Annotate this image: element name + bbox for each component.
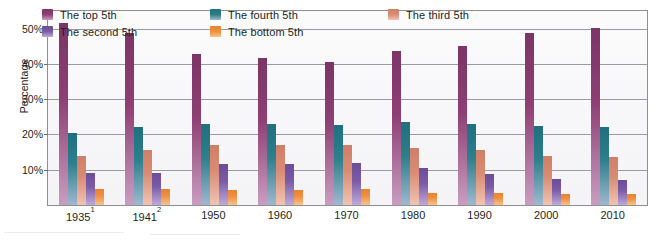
bar bbox=[410, 148, 419, 205]
legend-label: The bottom 5th bbox=[228, 26, 303, 38]
x-axis-label: 1990 bbox=[467, 209, 491, 221]
bar bbox=[285, 164, 294, 205]
bar bbox=[134, 127, 143, 205]
legend-item: The second 5th bbox=[42, 26, 210, 38]
bar bbox=[361, 189, 370, 205]
bar bbox=[267, 124, 276, 205]
bar bbox=[228, 190, 237, 205]
bar bbox=[618, 180, 627, 205]
bar bbox=[161, 189, 170, 205]
bar-group bbox=[314, 11, 381, 205]
legend-label: The third 5th bbox=[406, 9, 469, 21]
bar bbox=[210, 145, 219, 205]
y-axis-tick-label: 40% bbox=[22, 58, 43, 70]
x-axis-label: 1980 bbox=[401, 209, 425, 221]
bar bbox=[401, 122, 410, 205]
bar bbox=[600, 127, 609, 205]
bar bbox=[485, 174, 494, 205]
legend-label: The second 5th bbox=[60, 26, 137, 38]
bar bbox=[68, 133, 77, 205]
legend-item: The third 5th bbox=[388, 9, 518, 21]
bar-group bbox=[248, 11, 315, 205]
bar bbox=[201, 124, 210, 205]
bar bbox=[494, 193, 503, 205]
bar bbox=[591, 28, 600, 205]
bar-group bbox=[381, 11, 448, 205]
bar bbox=[419, 168, 428, 205]
legend-label: The top 5th bbox=[60, 9, 117, 21]
legend-swatch-icon bbox=[388, 9, 399, 20]
x-axis-label: 2010 bbox=[600, 209, 624, 221]
bar bbox=[334, 125, 343, 205]
x-axis-label: 1970 bbox=[334, 209, 358, 221]
y-axis-tick-label: 20% bbox=[22, 128, 43, 140]
bar bbox=[525, 33, 534, 205]
x-axis-label: 19412 bbox=[133, 209, 162, 223]
bar bbox=[343, 145, 352, 205]
legend-item: The bottom 5th bbox=[210, 26, 388, 38]
bar bbox=[192, 54, 201, 205]
scan-artifact bbox=[4, 232, 124, 233]
bar-group bbox=[514, 11, 581, 205]
bar bbox=[534, 126, 543, 205]
footnote-marker: 1 bbox=[90, 205, 94, 214]
bar bbox=[258, 58, 267, 205]
legend-swatch-icon bbox=[42, 9, 53, 20]
x-axis-label: 19351 bbox=[66, 209, 95, 223]
legend-swatch-icon bbox=[210, 26, 221, 37]
bar bbox=[152, 173, 161, 205]
legend-swatch-icon bbox=[42, 26, 53, 37]
bar bbox=[543, 156, 552, 205]
bar bbox=[627, 194, 636, 205]
chart-legend: The top 5thThe fourth 5thThe third 5thTh… bbox=[42, 6, 518, 40]
bar bbox=[561, 194, 570, 205]
bar-group bbox=[447, 11, 514, 205]
bar bbox=[352, 163, 361, 205]
bar bbox=[95, 189, 104, 205]
x-axis-label: 1960 bbox=[268, 209, 292, 221]
bar-chart: Percentage 10%20%30%40%50% The top 5thTh… bbox=[0, 0, 662, 242]
bar bbox=[552, 179, 561, 205]
footnote-marker: 2 bbox=[157, 205, 161, 214]
bar bbox=[143, 150, 152, 205]
bar bbox=[86, 173, 95, 205]
scan-artifact bbox=[150, 234, 240, 235]
y-axis-tick-label: 10% bbox=[22, 164, 43, 176]
y-axis-tick-label: 50% bbox=[22, 23, 43, 35]
bar-group bbox=[48, 11, 115, 205]
legend-item: The fourth 5th bbox=[210, 9, 388, 21]
bar bbox=[219, 164, 228, 205]
bar bbox=[467, 124, 476, 205]
bar bbox=[276, 145, 285, 205]
bar bbox=[294, 190, 303, 205]
legend-swatch-icon bbox=[210, 9, 221, 20]
bar bbox=[609, 157, 618, 205]
bar bbox=[325, 62, 334, 205]
bar bbox=[59, 23, 68, 205]
bar bbox=[125, 33, 134, 205]
legend-label: The fourth 5th bbox=[228, 9, 298, 21]
bar-group bbox=[181, 11, 248, 205]
x-axis-label: 2000 bbox=[534, 209, 558, 221]
legend-item: The top 5th bbox=[42, 9, 210, 21]
bar bbox=[458, 46, 467, 205]
bar-group bbox=[580, 11, 647, 205]
bar bbox=[428, 193, 437, 205]
bar-group bbox=[115, 11, 182, 205]
bar bbox=[476, 150, 485, 205]
bar bbox=[77, 156, 86, 205]
x-axis-labels: 19351194121950196019701980199020002010 bbox=[47, 207, 648, 227]
y-axis-tick-label: 30% bbox=[22, 93, 43, 105]
bars-layer bbox=[48, 11, 647, 205]
x-axis-label: 1950 bbox=[201, 209, 225, 221]
bar bbox=[392, 51, 401, 205]
